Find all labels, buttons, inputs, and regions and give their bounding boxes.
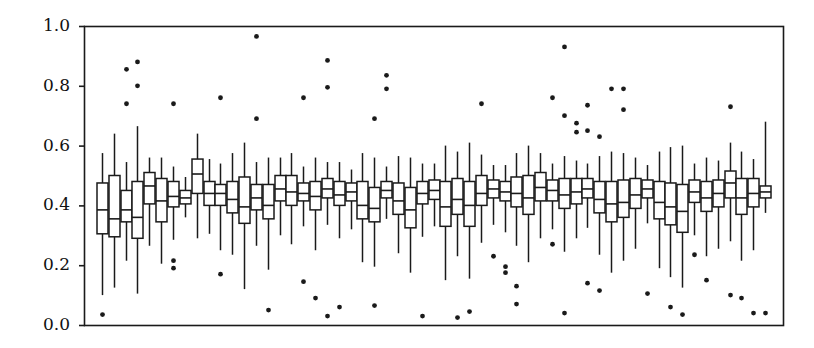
- box-iqr: [109, 176, 120, 237]
- box-plot-item: [677, 146, 688, 317]
- box-plot-item: [381, 73, 392, 219]
- outlier-point: [124, 67, 129, 72]
- box-plot-item: [109, 134, 120, 288]
- outlier-point: [562, 45, 567, 50]
- outlier-point: [254, 34, 259, 39]
- outlier-point: [514, 302, 519, 307]
- outlier-point: [479, 101, 484, 106]
- box-plot-item: [736, 152, 747, 301]
- outlier-point: [372, 303, 377, 308]
- box-plot-item: [286, 153, 297, 244]
- outlier-point: [562, 311, 567, 316]
- box-plot-item: [334, 162, 345, 309]
- box-iqr: [215, 184, 226, 205]
- y-tick-label: 0.4: [0, 196, 70, 214]
- outlier-point: [491, 254, 496, 259]
- outlier-point: [680, 312, 685, 317]
- y-tick-label-text: 0.8: [0, 77, 70, 94]
- box-plot-item: [121, 67, 132, 261]
- outlier-point: [585, 281, 590, 286]
- outlier-point: [171, 258, 176, 263]
- box-iqr: [559, 178, 570, 208]
- box-iqr: [121, 190, 132, 221]
- outlier-point: [313, 296, 318, 301]
- outlier-point: [372, 116, 377, 121]
- box-iqr: [227, 181, 238, 212]
- outlier-point: [574, 121, 579, 126]
- box-plot-item: [748, 159, 759, 315]
- box-plot-item: [547, 95, 558, 246]
- outlier-point: [550, 95, 555, 100]
- box-iqr: [665, 183, 676, 225]
- outlier-point: [728, 104, 733, 109]
- box-plot-item: [500, 165, 511, 275]
- boxplot-canvas: [0, 0, 814, 348]
- boxplot-figure: 1.00.80.60.40.20.0: [0, 0, 814, 348]
- outlier-point: [135, 83, 140, 88]
- box-iqr: [725, 171, 736, 198]
- box-plot-item: [239, 143, 250, 290]
- box-iqr: [393, 183, 404, 214]
- box-plot-item: [215, 95, 226, 276]
- outlier-point: [171, 101, 176, 106]
- box-plot-item: [701, 158, 712, 283]
- box-iqr: [369, 187, 380, 221]
- outlier-point: [467, 309, 472, 314]
- box-iqr: [192, 159, 203, 193]
- box-iqr: [132, 181, 143, 238]
- box-iqr: [464, 181, 475, 226]
- box-plot-item: [204, 159, 215, 234]
- outlier-point: [100, 312, 105, 317]
- box-iqr: [511, 177, 522, 207]
- box-iqr: [677, 184, 688, 232]
- box-iqr: [286, 176, 297, 206]
- box-iqr: [701, 181, 712, 211]
- outlier-point: [301, 279, 306, 284]
- box-plot-item: [405, 158, 416, 273]
- box-plot-item: [346, 170, 357, 230]
- y-tick-label-text: 0.0: [0, 316, 70, 333]
- y-tick-label: 0.6: [0, 137, 70, 155]
- box-plot-item: [582, 103, 593, 286]
- box-plot-item: [511, 153, 522, 306]
- box-plot-item: [594, 134, 605, 293]
- box-plot-item: [760, 122, 771, 316]
- outlier-point: [609, 86, 614, 91]
- box-iqr: [263, 184, 274, 218]
- y-tick-label: 1.0: [0, 17, 70, 35]
- box-iqr: [357, 181, 368, 218]
- box-iqr: [606, 181, 617, 221]
- outlier-point: [621, 107, 626, 112]
- box-iqr: [239, 177, 250, 223]
- box-iqr: [334, 181, 345, 205]
- outlier-point: [455, 315, 460, 320]
- outlier-point: [384, 86, 389, 91]
- outlier-point: [668, 305, 673, 310]
- box-plot-item: [275, 158, 286, 236]
- box-plot-item: [263, 158, 274, 313]
- outlier-point: [763, 311, 768, 316]
- outlier-point: [692, 252, 697, 257]
- y-tick-label: 0.2: [0, 256, 70, 274]
- outlier-point: [325, 314, 330, 319]
- outlier-point: [574, 130, 579, 135]
- outlier-point: [585, 128, 590, 133]
- outlier-point: [325, 58, 330, 63]
- outlier-point: [597, 134, 602, 139]
- box-plot-item: [464, 143, 475, 314]
- box-plot-item: [689, 164, 700, 258]
- outlier-point: [124, 101, 129, 106]
- box-plot-item: [132, 59, 143, 293]
- outlier-point: [218, 95, 223, 100]
- box-plot-item: [227, 153, 238, 255]
- box-plot-item: [476, 101, 487, 242]
- outlier-point: [503, 264, 508, 269]
- box-plot-item: [429, 164, 440, 227]
- box-plot-item: [310, 158, 321, 301]
- y-tick-label-text: 0.2: [0, 256, 70, 273]
- box-iqr: [97, 183, 108, 234]
- box-plot-item: [559, 45, 570, 316]
- box-plot-item: [571, 121, 582, 239]
- box-plot-item: [357, 153, 368, 262]
- outlier-point: [325, 85, 330, 90]
